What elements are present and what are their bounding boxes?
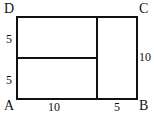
edge-right bbox=[136, 16, 138, 100]
vertex-a: A bbox=[4, 99, 14, 113]
vertex-c: C bbox=[139, 2, 148, 16]
label-right: 10 bbox=[139, 51, 151, 63]
vertex-d: D bbox=[4, 2, 14, 16]
label-left-upper: 5 bbox=[6, 33, 12, 45]
label-bottom-right: 5 bbox=[114, 101, 120, 113]
label-bottom-left: 10 bbox=[48, 101, 60, 113]
edge-top bbox=[16, 16, 138, 18]
label-left-lower: 5 bbox=[6, 74, 12, 86]
vertex-b: B bbox=[139, 99, 148, 113]
horizontal-divider bbox=[16, 57, 97, 59]
